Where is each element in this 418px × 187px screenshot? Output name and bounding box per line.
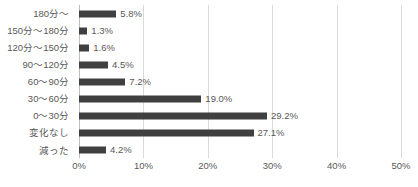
bar-value-label: 5.8% [116, 9, 142, 19]
bar [79, 10, 116, 17]
category-label: 180分～ [0, 5, 74, 22]
bar [79, 27, 87, 34]
bar-row: 19.0% [79, 91, 401, 108]
bar [79, 130, 254, 137]
bar-row: 1.3% [79, 22, 401, 39]
category-label: 減った [0, 142, 74, 159]
category-label: 30～60分 [0, 91, 74, 108]
bar-chart: 180分～150分～180分120分～150分90～120分60～90分30～6… [0, 0, 418, 187]
bar-value-label: 29.2% [267, 111, 298, 121]
x-tick-label: 20% [198, 161, 217, 171]
category-label: 60～90分 [0, 73, 74, 90]
bar [79, 78, 125, 85]
x-tick-label: 0% [72, 161, 86, 171]
x-tick-label: 40% [327, 161, 346, 171]
bar-row: 5.8% [79, 5, 401, 22]
bar-value-label: 7.2% [125, 77, 151, 87]
bar-value-label: 4.5% [108, 60, 134, 70]
bar-value-label: 19.0% [201, 94, 232, 104]
category-axis: 180分～150分～180分120分～150分90～120分60～90分30～6… [0, 5, 74, 158]
category-label: 150分～180分 [0, 22, 74, 39]
bar-row: 4.5% [79, 56, 401, 73]
bar-value-label: 1.3% [87, 26, 113, 36]
plot-area: 5.8%1.3%1.6%4.5%7.2%19.0%29.2%27.1%4.2% [79, 5, 401, 158]
category-label: 0～30分 [0, 108, 74, 125]
bar [79, 44, 89, 51]
bar [79, 96, 201, 103]
bar-row: 27.1% [79, 125, 401, 142]
bar-row: 1.6% [79, 39, 401, 56]
bar-value-label: 1.6% [89, 43, 115, 53]
bar-value-label: 4.2% [106, 146, 132, 156]
bar-row: 7.2% [79, 73, 401, 90]
category-label: 変化なし [0, 125, 74, 142]
bar-row: 29.2% [79, 108, 401, 125]
x-tick-label: 10% [134, 161, 153, 171]
x-tick-label: 30% [263, 161, 282, 171]
x-axis: 0%10%20%30%40%50% [79, 161, 401, 177]
category-label: 120分～150分 [0, 39, 74, 56]
x-tick-label: 50% [391, 161, 410, 171]
gridline-50 [401, 5, 402, 158]
category-label: 90～120分 [0, 56, 74, 73]
bar [79, 61, 108, 68]
bar-row: 4.2% [79, 142, 401, 159]
bar [79, 113, 267, 120]
bar [79, 147, 106, 154]
bar-value-label: 27.1% [254, 128, 285, 138]
